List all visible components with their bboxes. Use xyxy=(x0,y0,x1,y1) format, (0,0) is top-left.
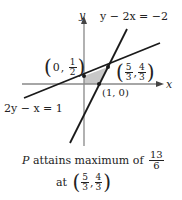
fraction-x: 5 3 xyxy=(125,63,133,82)
paren-left: ( xyxy=(44,57,52,77)
denominator: 2 xyxy=(69,68,77,77)
denominator: 6 xyxy=(152,161,160,171)
paren-right: ) xyxy=(103,172,111,192)
caption-variable: P xyxy=(22,155,29,166)
caption-at: at xyxy=(56,177,67,188)
denominator: 3 xyxy=(95,183,103,192)
fraction-y: 4 3 xyxy=(95,173,103,192)
paren-left: ( xyxy=(116,62,124,82)
numerator: 4 xyxy=(95,173,103,183)
numerator: 4 xyxy=(138,63,146,73)
caption-line1: P attains maximum of 13 6 xyxy=(22,150,164,171)
denominator: 3 xyxy=(138,73,146,82)
y-axis-label: y xyxy=(79,10,85,21)
equation-line2: y − 2x = −2 xyxy=(100,11,168,22)
caption-line2: at ( 5 3 , 4 3 ) xyxy=(56,172,111,192)
fraction: 1 2 xyxy=(69,58,77,77)
paren-right: ) xyxy=(78,57,86,77)
denominator: 3 xyxy=(125,73,133,82)
label-point-1-0: (1, 0) xyxy=(102,88,129,98)
comma: , xyxy=(61,62,68,73)
equation-line1: 2y − x = 1 xyxy=(4,103,63,114)
fraction-y: 4 3 xyxy=(138,63,146,82)
numerator: 1 xyxy=(69,58,77,68)
label-point-0-half: ( 0, 1 2 ) xyxy=(44,57,85,77)
point-5-3-4-3 xyxy=(106,65,110,69)
x-axis-label: x xyxy=(166,79,172,90)
paren-left: ( xyxy=(72,172,80,192)
label-point-5-3-4-3: ( 5 3 , 4 3 ) xyxy=(116,62,155,82)
numerator: 5 xyxy=(81,173,89,183)
paren-right: ) xyxy=(147,62,155,82)
fraction-x: 5 3 xyxy=(81,173,89,192)
point-x: 0 xyxy=(53,62,60,73)
caption-max-fraction: 13 6 xyxy=(149,150,164,171)
numerator: 5 xyxy=(125,63,133,73)
denominator: 3 xyxy=(81,183,89,192)
x-axis-arrow-icon xyxy=(156,81,164,87)
comma: , xyxy=(134,67,138,78)
comma: , xyxy=(90,177,94,188)
point-1-0 xyxy=(97,82,101,86)
caption-text: attains maximum of xyxy=(29,155,147,166)
line-y-minus-2x-eq-neg2 xyxy=(70,29,127,143)
